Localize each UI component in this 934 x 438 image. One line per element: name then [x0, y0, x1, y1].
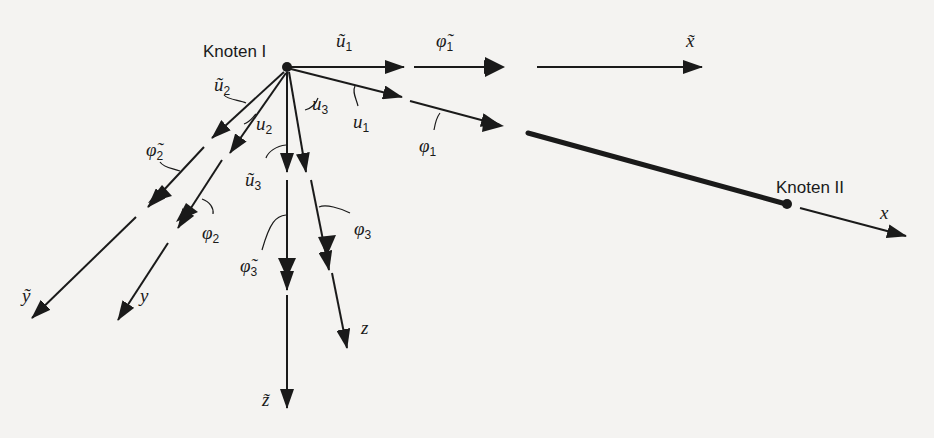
z-label: z: [360, 317, 369, 338]
beam-element: [528, 133, 786, 204]
phi3-arrow: [311, 180, 329, 270]
phi1-double-head: [482, 116, 504, 132]
x-tilde-label: x̃: [685, 30, 695, 51]
u3-tilde-leader: [266, 145, 286, 158]
x-label: x: [879, 202, 889, 223]
phi2-leader: [202, 199, 213, 214]
global-z-axis: [278, 72, 296, 408]
phi2-tilde-label: φ̃2: [146, 139, 165, 163]
node-2-label: Knoten II: [776, 178, 844, 197]
local-y-axis: [118, 73, 286, 320]
phi1-tilde-label: φ̃1: [436, 30, 455, 54]
global-y-axis: [32, 72, 284, 318]
node-1-label: Knoten I: [203, 42, 266, 61]
phi1-tilde-double-head: [485, 57, 505, 77]
u3-label: u3: [312, 93, 329, 117]
y-tilde-label: ỹ: [20, 285, 31, 306]
node-1-dot: [282, 62, 292, 72]
phi2-tilde-leader: [160, 162, 180, 171]
phi2-label: φ2: [202, 222, 220, 246]
beam-element-diagram: Knoten I Knoten II x̃ x ỹ y z̃ z ũ1 φ̃1 …: [0, 0, 934, 438]
u1-leader: [354, 86, 358, 106]
u3-arrow: [289, 72, 306, 172]
phi2-tilde-double-head: [148, 185, 172, 203]
phi1-label: φ1: [419, 135, 437, 159]
y-label: y: [138, 285, 149, 306]
phi3-label: φ3: [354, 218, 372, 242]
phi3-tilde-label: φ̃3: [240, 255, 259, 279]
phi1-leader: [434, 113, 440, 130]
node-2-dot: [782, 199, 792, 209]
u1-arrow: [291, 69, 402, 97]
u1-tilde-label: ũ1: [336, 30, 353, 54]
z-arrow: [332, 273, 347, 348]
u2-label: u2: [256, 113, 273, 137]
phi3-double-head: [318, 235, 336, 256]
u1-label: u1: [353, 111, 370, 135]
global-x-axis: [291, 57, 702, 77]
local-x-axis: [291, 69, 906, 236]
phi3-leader: [319, 206, 350, 213]
u2-tilde-label: ũ2: [214, 74, 231, 98]
y-tilde-arrow: [32, 217, 136, 318]
phi3-tilde-double-head: [278, 258, 296, 278]
u3-tilde-label: ũ3: [245, 169, 262, 193]
z-tilde-label: z̃: [261, 389, 271, 410]
phi2-double-head: [176, 203, 198, 222]
phi3-tilde-leader: [262, 215, 286, 250]
y-arrow: [118, 243, 168, 320]
x-arrow: [800, 208, 906, 236]
